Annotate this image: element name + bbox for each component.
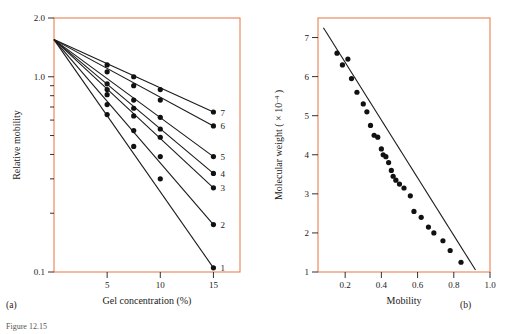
data-point <box>419 215 424 220</box>
x-tick-label: 1.0 <box>484 280 496 290</box>
panel-b-chart: 12345670.20.40.60.81.0MobilityMolecular … <box>262 0 513 320</box>
data-point <box>211 154 216 159</box>
y-tick-label: 4 <box>305 150 310 160</box>
data-point <box>211 123 216 128</box>
x-tick-label: 10 <box>156 280 166 290</box>
data-point <box>340 62 345 67</box>
x-tick-label: 0.2 <box>340 280 351 290</box>
series-label: 7 <box>220 108 225 118</box>
data-point <box>354 90 359 95</box>
panel-a-chart: 0.11.02.0510157654321Gel concentration (… <box>0 0 262 320</box>
panel-b-svg: 12345670.20.40.60.81.0MobilityMolecular … <box>262 0 513 320</box>
data-point <box>158 87 163 92</box>
data-point <box>448 248 453 253</box>
data-point <box>386 160 391 165</box>
data-point <box>349 76 354 81</box>
panel-b-letter: (b) <box>460 300 471 310</box>
data-point <box>158 135 163 140</box>
data-point <box>158 115 163 120</box>
x-tick-label: 0.8 <box>448 280 460 290</box>
data-point <box>389 168 394 173</box>
series-label: 2 <box>220 220 225 230</box>
fit-line <box>323 28 475 270</box>
data-point <box>379 146 384 151</box>
series-label: 1 <box>220 263 225 273</box>
y-tick-label: 3 <box>305 189 310 199</box>
data-point <box>440 238 445 243</box>
data-point <box>411 209 416 214</box>
panel-a-svg: 0.11.02.0510157654321Gel concentration (… <box>0 0 262 320</box>
y-tick-label: 2.0 <box>34 13 46 23</box>
y-tick-label: 1.0 <box>34 72 46 82</box>
data-point <box>158 154 163 159</box>
y-axis-title: Molecular weight ( × 10–4 ) <box>273 90 286 200</box>
data-point <box>105 62 110 67</box>
data-point <box>211 185 216 190</box>
figure-caption: Figure 12.15 <box>6 322 47 331</box>
data-point <box>131 97 136 102</box>
data-point <box>131 128 136 133</box>
data-point <box>158 97 163 102</box>
data-point <box>397 181 402 186</box>
x-tick-label: 0.4 <box>376 280 388 290</box>
data-point <box>105 69 110 74</box>
data-point <box>131 74 136 79</box>
panel-a-frame <box>54 18 240 272</box>
y-tick-label: 1 <box>305 267 310 277</box>
data-point <box>131 113 136 118</box>
y-axis-title: Relative mobility <box>11 110 22 180</box>
y-tick-label: 2 <box>305 228 310 238</box>
data-point <box>105 112 110 117</box>
y-tick-label: 0.1 <box>34 267 45 277</box>
data-point <box>364 109 369 114</box>
series-label: 5 <box>220 152 225 162</box>
data-point <box>211 171 216 176</box>
data-point <box>431 230 436 235</box>
data-point <box>458 260 463 265</box>
x-tick-label: 5 <box>105 280 110 290</box>
data-point <box>368 123 373 128</box>
data-point <box>211 109 216 114</box>
y-tick-label: 7 <box>305 33 310 43</box>
series-label: 4 <box>220 169 225 179</box>
data-point <box>345 56 350 61</box>
data-point <box>158 176 163 181</box>
data-point <box>211 222 216 227</box>
series-label: 6 <box>220 121 225 131</box>
data-point <box>105 102 110 107</box>
panel-a-letter: (a) <box>6 300 17 310</box>
data-point <box>158 126 163 131</box>
data-point <box>383 154 388 159</box>
data-point <box>334 51 339 56</box>
data-point <box>375 135 380 140</box>
y-tick-label: 6 <box>305 72 310 82</box>
data-point <box>426 224 431 229</box>
x-tick-label: 15 <box>209 280 219 290</box>
panel-b-frame <box>318 18 490 272</box>
x-axis-title: Gel concentration (%) <box>103 295 192 307</box>
data-point <box>131 106 136 111</box>
data-point <box>211 265 216 270</box>
data-point <box>401 185 406 190</box>
y-tick-label: 5 <box>305 111 310 121</box>
data-point <box>105 92 110 97</box>
data-point <box>408 193 413 198</box>
series-label: 3 <box>220 183 225 193</box>
data-point <box>131 83 136 88</box>
data-point <box>361 101 366 106</box>
x-tick-label: 0.6 <box>412 280 424 290</box>
data-point <box>131 144 136 149</box>
x-axis-title: Mobility <box>386 295 421 306</box>
data-point <box>393 178 398 183</box>
